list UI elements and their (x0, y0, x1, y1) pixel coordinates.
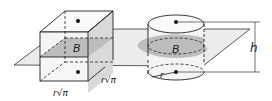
prism-base-label: B (73, 42, 81, 55)
prism-side-label-2: r√π (53, 88, 68, 98)
cylinder-base-label: B (172, 43, 180, 56)
prism-bottom-center-dot (76, 70, 80, 74)
prism-cylinder-diagram: B r√π r√π B r h (0, 0, 272, 101)
height-label: h (250, 41, 258, 55)
prism-side-label-1: r√π (101, 75, 116, 85)
cylinder: B r (138, 15, 208, 80)
square-prism: B r√π r√π (40, 11, 116, 98)
prism-top-center-dot (76, 19, 80, 23)
